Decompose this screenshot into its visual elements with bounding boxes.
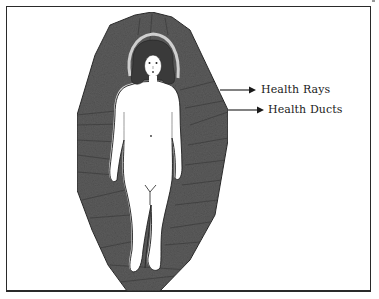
label-health-rays: Health Rays <box>261 83 330 96</box>
label-health-ducts: Health Ducts <box>268 103 343 116</box>
arrow-health-ducts <box>228 107 264 114</box>
arrow-health-rays <box>220 87 256 94</box>
aura-illustration <box>0 0 379 299</box>
